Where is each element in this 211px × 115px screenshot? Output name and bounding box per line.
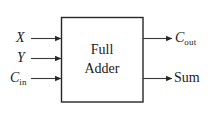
input-x-label: X: [16, 31, 25, 45]
input-cin-label: Cin: [10, 71, 27, 85]
output-sum-label: Sum: [174, 71, 200, 85]
output-cout-label-subscript: out: [184, 37, 196, 47]
output-cout-label: Cout: [175, 31, 196, 45]
input-y-label: Y: [17, 51, 25, 65]
output-cout-label-text: C: [175, 30, 184, 45]
full-adder-diagram: Full Adder X Y Cin Cout Sum: [0, 0, 211, 115]
full-adder-block-label: Full Adder: [61, 17, 143, 102]
input-cin-label-text: C: [10, 70, 19, 85]
block-label-line2: Adder: [85, 61, 120, 77]
input-x-label-text: X: [16, 30, 25, 45]
block-label-line1: Full: [91, 42, 114, 58]
output-sum-label-text: Sum: [174, 70, 200, 85]
input-y-label-text: Y: [17, 50, 25, 65]
input-cin-label-subscript: in: [19, 77, 26, 87]
